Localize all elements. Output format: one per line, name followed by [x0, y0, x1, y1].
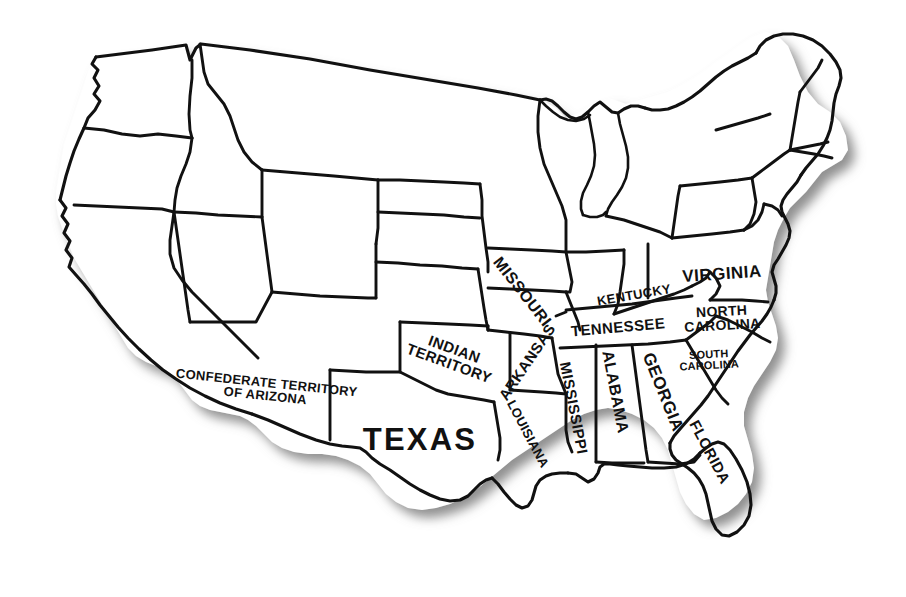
map-outline-graphic: [0, 0, 906, 597]
national-landmass: [56, 32, 848, 520]
us-confederate-states-map: CONFEDERATE TERRITORY OF ARIZONA TEXAS I…: [0, 0, 906, 597]
